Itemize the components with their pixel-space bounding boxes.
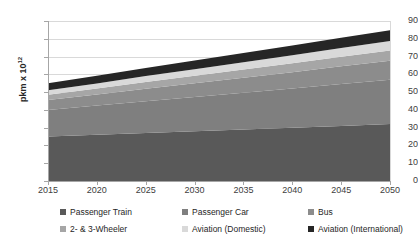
chart-legend: Passenger TrainPassenger CarBus2- & 3-Wh… [60, 203, 410, 237]
legend-row: Passenger TrainPassenger CarBus [60, 203, 410, 220]
x-tick-label: 2025 [126, 185, 166, 195]
y-axis-title-exponent: 12 [17, 57, 23, 64]
legend-item[interactable]: Bus [308, 207, 333, 217]
axis-line-right [390, 21, 391, 182]
legend-swatch-icon [182, 209, 188, 215]
x-tick-label: 2045 [321, 185, 361, 195]
legend-label: Bus [318, 207, 333, 217]
x-tick-label: 2050 [370, 185, 410, 195]
legend-swatch-icon [308, 226, 314, 232]
x-tick-label: 2015 [28, 185, 68, 195]
legend-item[interactable]: Passenger Car [182, 207, 308, 217]
legend-swatch-icon [308, 209, 314, 215]
y-axis-title: pkm x 1012 [17, 32, 28, 128]
legend-item[interactable]: Aviation (Domestic) [182, 224, 308, 234]
legend-swatch-icon [60, 226, 66, 232]
legend-label: Aviation (Domestic) [192, 224, 266, 234]
legend-swatch-icon [182, 226, 188, 232]
legend-item[interactable]: 2- & 3-Wheeler [60, 224, 182, 234]
x-tick-label: 2040 [272, 185, 312, 195]
axis-line-bottom [48, 181, 391, 182]
legend-label: 2- & 3-Wheeler [70, 224, 127, 234]
x-tick-label: 2030 [175, 185, 215, 195]
x-tick-mark [97, 181, 98, 185]
x-tick-mark [292, 181, 293, 185]
x-tick-label: 2020 [77, 185, 117, 195]
y-axis-title-text: pkm x 10 [18, 64, 28, 103]
legend-item[interactable]: Passenger Train [60, 207, 182, 217]
axis-line-left [48, 21, 49, 182]
x-tick-mark [146, 181, 147, 185]
x-tick-mark [390, 181, 391, 185]
legend-swatch-icon [60, 209, 66, 215]
x-tick-mark [243, 181, 244, 185]
legend-label: Passenger Train [70, 207, 132, 217]
area-series-group [48, 21, 390, 181]
plot-area [48, 21, 390, 181]
legend-row: 2- & 3-WheelerAviation (Domestic)Aviatio… [60, 220, 410, 237]
legend-label: Aviation (International) [318, 224, 403, 234]
stacked-area-chart: pkm x 1012 0102030405060708090 201520202… [0, 0, 418, 244]
legend-label: Passenger Car [192, 207, 249, 217]
x-tick-mark [195, 181, 196, 185]
x-tick-label: 2035 [223, 185, 263, 195]
x-tick-mark [341, 181, 342, 185]
legend-item[interactable]: Aviation (International) [308, 224, 403, 234]
x-tick-mark [48, 181, 49, 185]
